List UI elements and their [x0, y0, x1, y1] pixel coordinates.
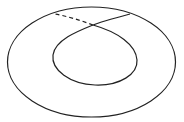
background [0, 0, 184, 122]
diagram-canvas [0, 0, 184, 122]
